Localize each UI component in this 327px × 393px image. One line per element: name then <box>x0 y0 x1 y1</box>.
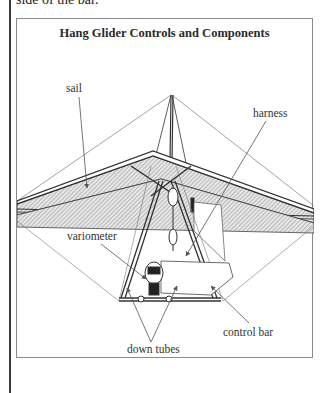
wing <box>17 151 314 261</box>
margin-rule <box>9 0 11 393</box>
label-variometer: variometer <box>67 230 117 242</box>
hang-glider-illustration <box>17 19 314 359</box>
label-control-bar: control bar <box>223 326 273 338</box>
label-harness: harness <box>253 107 288 119</box>
figure: Hang Glider Controls and Components <box>16 18 313 358</box>
label-sail: sail <box>66 82 82 94</box>
king-post <box>156 95 186 163</box>
preceding-text: side of the bar. <box>16 0 98 8</box>
label-down-tubes: down tubes <box>127 343 180 355</box>
